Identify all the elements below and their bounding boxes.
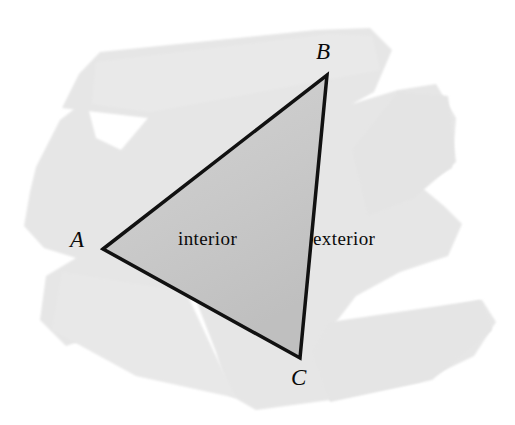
vertex-point-b: [326, 74, 328, 76]
region-label-interior: interior: [178, 229, 237, 248]
vertex-point-a: [102, 248, 104, 250]
vertex-label-b: B: [316, 40, 330, 63]
region-label-exterior: exterior: [313, 229, 375, 248]
vertex-point-c: [299, 357, 301, 359]
figure-root: A B C interior exterior: [0, 0, 515, 425]
geometry-figure-svg: [0, 0, 515, 425]
vertex-label-c: C: [291, 366, 306, 389]
vertex-label-a: A: [70, 228, 84, 251]
